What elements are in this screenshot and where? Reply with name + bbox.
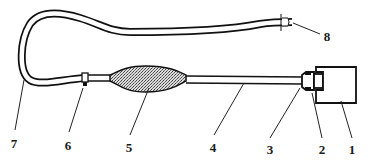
callout-5: 5 (126, 140, 133, 155)
callout-8: 8 (324, 29, 331, 44)
callout-6: 6 (65, 138, 72, 153)
callout-labels: 1 2 3 4 5 6 7 8 (11, 29, 356, 157)
apparatus-diagram: 1 2 3 4 5 6 7 8 (0, 0, 369, 163)
callout-4: 4 (210, 140, 217, 155)
inner-fitting (314, 74, 323, 88)
bulb-balloon (110, 66, 186, 92)
callout-3: 3 (267, 142, 274, 157)
short-tube (88, 75, 110, 81)
callout-2: 2 (319, 142, 326, 157)
connector-nut (302, 72, 314, 90)
callout-7: 7 (11, 136, 18, 151)
callout-1: 1 (349, 142, 356, 157)
end-connector (281, 14, 289, 31)
straight-tube (186, 76, 302, 84)
clamp (82, 73, 88, 86)
